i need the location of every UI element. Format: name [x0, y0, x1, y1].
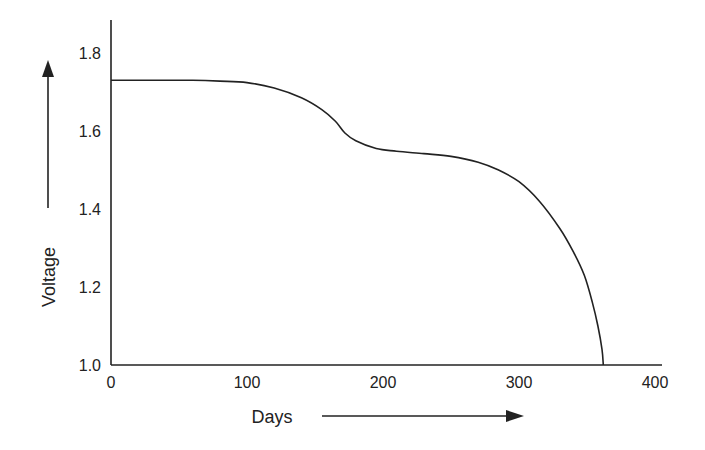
y-tick-label: 1.2	[79, 279, 101, 296]
x-tick-label: 0	[107, 374, 116, 391]
y-axis-label: Voltage	[39, 247, 59, 307]
y-tick-label: 1.8	[79, 45, 101, 62]
x-tick-label: 100	[234, 374, 261, 391]
x-axis-title-group: Days	[251, 407, 524, 427]
x-tick-label: 300	[506, 374, 533, 391]
x-axis-arrow-head-icon	[506, 410, 524, 422]
x-tick-label: 400	[642, 374, 669, 391]
series-group	[111, 80, 603, 365]
x-axis-label: Days	[251, 407, 292, 427]
y-tick-label: 1.0	[79, 357, 101, 374]
y-axis-arrow-head-icon	[42, 60, 54, 77]
axes	[111, 20, 662, 365]
y-tick-label: 1.4	[79, 201, 101, 218]
voltage-curve-line	[111, 80, 603, 365]
y-tick-label: 1.6	[79, 123, 101, 140]
x-tick-label: 200	[370, 374, 397, 391]
voltage-days-chart: 1.0 1.2 1.4 1.6 1.8 0 100 200 300 400 Vo…	[0, 0, 705, 450]
y-axis-title-group: Voltage	[39, 60, 59, 307]
x-tick-labels: 0 100 200 300 400	[107, 374, 669, 391]
y-tick-labels: 1.0 1.2 1.4 1.6 1.8	[79, 45, 101, 374]
